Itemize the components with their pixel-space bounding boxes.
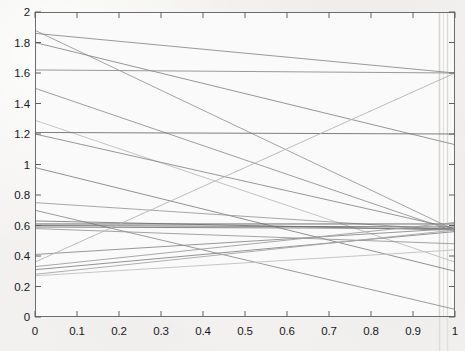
x-tick-label: 0.3	[153, 325, 169, 337]
y-tick-label: 0.8	[0, 189, 30, 201]
x-tick-label: 0.8	[363, 325, 379, 337]
x-tick-label: 0.1	[69, 325, 85, 337]
y-tick-label: 0	[0, 311, 30, 323]
y-tick-label: 1.6	[0, 67, 30, 79]
y-tick-label: 1.2	[0, 128, 30, 140]
x-tick-label: 0.9	[405, 325, 421, 337]
x-tick-label: 0.2	[111, 325, 127, 337]
y-tick-label: 1.8	[0, 37, 30, 49]
y-tick-label: 0.6	[0, 220, 30, 232]
x-tick-label: 0.6	[279, 325, 295, 337]
y-tick-label: 1.4	[0, 98, 30, 110]
x-tick-label: 0	[32, 325, 38, 337]
y-tick-label: 0.2	[0, 281, 30, 293]
chart-figure: 00.20.40.60.811.21.41.61.82 00.10.20.30.…	[0, 0, 465, 351]
x-tick-label: 0.7	[321, 325, 337, 337]
x-tick-label: 1	[452, 325, 458, 337]
y-tick-label: 1	[0, 159, 30, 171]
y-tick-label: 2	[0, 6, 30, 18]
line-chart-plot	[0, 0, 465, 351]
y-tick-label: 0.4	[0, 250, 30, 262]
x-tick-label: 0.4	[195, 325, 211, 337]
x-tick-label: 0.5	[237, 325, 253, 337]
